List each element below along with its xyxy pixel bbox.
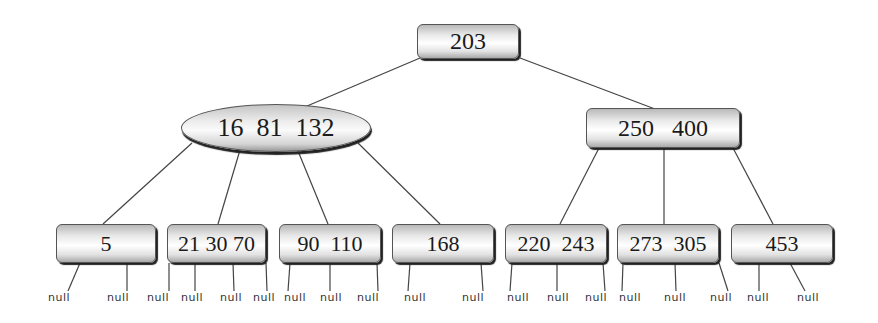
leaf-keys: 220 243: [518, 231, 595, 257]
root-node: 203: [417, 24, 519, 59]
null-label: null: [357, 291, 379, 304]
null-label: null: [507, 291, 529, 304]
null-label: null: [619, 291, 641, 304]
leaf-node: 273 305: [617, 224, 719, 263]
null-label: null: [462, 291, 484, 304]
null-label: null: [585, 291, 607, 304]
leaf-node: 90 110: [279, 224, 381, 263]
leaf-node: 220 243: [505, 224, 607, 263]
null-label: null: [147, 291, 169, 304]
null-label: null: [181, 291, 203, 304]
leaf-keys: 453: [766, 231, 799, 257]
null-label: null: [797, 291, 819, 304]
internal-node-right: 250 400: [586, 108, 740, 148]
leaf-node: 168: [392, 224, 494, 263]
null-label: null: [107, 291, 129, 304]
null-label: null: [710, 291, 732, 304]
internal-node-left: 16 81 132: [181, 104, 371, 152]
leaf-node: 21 30 70: [167, 224, 266, 263]
null-label: null: [747, 291, 769, 304]
leaf-keys: 168: [427, 231, 460, 257]
null-label: null: [664, 291, 686, 304]
leaf-keys: 21 30 70: [178, 231, 255, 257]
null-label: null: [220, 291, 242, 304]
leaf-keys: 273 305: [630, 231, 707, 257]
leaf-node: 453: [731, 224, 833, 263]
leaf-node: 5: [56, 224, 156, 263]
null-label: null: [48, 291, 70, 304]
internal-node-right-keys: 250 400: [618, 115, 708, 142]
null-label: null: [320, 291, 342, 304]
null-label: null: [404, 291, 426, 304]
null-label: null: [547, 291, 569, 304]
null-label: null: [284, 291, 306, 304]
b-tree-diagram: 203 16 81 132 250 400 5 21 30 70 90 110 …: [0, 0, 878, 323]
leaf-keys: 5: [101, 231, 112, 257]
root-keys: 203: [450, 28, 486, 55]
internal-node-left-keys: 16 81 132: [218, 113, 335, 143]
null-label: null: [253, 291, 275, 304]
leaf-keys: 90 110: [297, 231, 362, 257]
